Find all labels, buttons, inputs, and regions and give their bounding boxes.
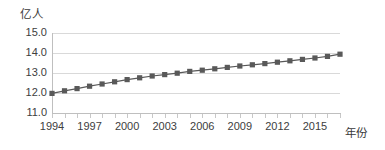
x-tick — [190, 114, 191, 118]
y-tick-label: 15.0 — [7, 27, 47, 38]
x-tick — [290, 114, 291, 118]
x-tick — [90, 114, 91, 118]
y-tick-label: 12.0 — [7, 87, 47, 98]
x-tick-label: 2006 — [190, 120, 214, 132]
x-tick-label: 2000 — [115, 120, 139, 132]
y-tick-label: 14.0 — [7, 47, 47, 58]
data-point-marker — [99, 81, 104, 86]
data-point-marker — [237, 63, 242, 68]
data-point-marker — [300, 57, 305, 62]
series-polyline — [52, 54, 340, 93]
data-point-marker — [200, 68, 205, 73]
x-tick-label: 2009 — [228, 120, 252, 132]
data-point-marker — [312, 55, 317, 60]
x-tick — [165, 114, 166, 118]
data-point-marker — [137, 75, 142, 80]
x-tick-label: 2015 — [303, 120, 327, 132]
x-tick — [152, 114, 153, 118]
series-line — [52, 33, 341, 114]
data-point-marker — [275, 60, 280, 65]
x-tick — [202, 114, 203, 118]
x-tick — [265, 114, 266, 118]
x-tick — [327, 114, 328, 118]
data-point-marker — [62, 88, 67, 93]
data-point-marker — [212, 66, 217, 71]
data-point-marker — [87, 84, 92, 89]
data-point-marker — [74, 86, 79, 91]
data-point-marker — [262, 61, 267, 66]
x-tick — [302, 114, 303, 118]
x-tick — [315, 114, 316, 118]
data-point-marker — [225, 65, 230, 70]
x-tick — [177, 114, 178, 118]
x-tick-label: 2003 — [152, 120, 176, 132]
x-tick — [340, 114, 341, 118]
x-tick — [140, 114, 141, 118]
data-point-marker — [49, 91, 54, 96]
x-tick — [277, 114, 278, 118]
x-tick-label: 1994 — [40, 120, 64, 132]
x-tick-label: 2012 — [265, 120, 289, 132]
x-tick — [65, 114, 66, 118]
data-point-marker — [125, 77, 130, 82]
x-tick — [102, 114, 103, 118]
data-point-marker — [250, 62, 255, 67]
data-point-marker — [287, 58, 292, 63]
x-tick — [127, 114, 128, 118]
x-tick — [215, 114, 216, 118]
x-tick — [227, 114, 228, 118]
data-point-marker — [175, 71, 180, 76]
y-tick-label: 11.0 — [7, 107, 47, 118]
y-axis-title: 亿人 — [20, 5, 43, 21]
x-tick-label: 1997 — [77, 120, 101, 132]
x-tick — [240, 114, 241, 118]
data-point-marker — [150, 73, 155, 78]
x-axis-title: 年份 — [345, 124, 367, 140]
y-tick-label: 13.0 — [7, 67, 47, 78]
data-point-marker — [187, 69, 192, 74]
data-point-marker — [112, 79, 117, 84]
x-tick — [52, 114, 53, 118]
population-line-chart: 亿人 年份 11.012.013.014.015.019941997200020… — [0, 0, 385, 150]
x-tick — [252, 114, 253, 118]
data-point-marker — [337, 52, 342, 57]
x-tick — [77, 114, 78, 118]
data-point-marker — [325, 54, 330, 59]
x-tick — [115, 114, 116, 118]
data-point-marker — [162, 72, 167, 77]
